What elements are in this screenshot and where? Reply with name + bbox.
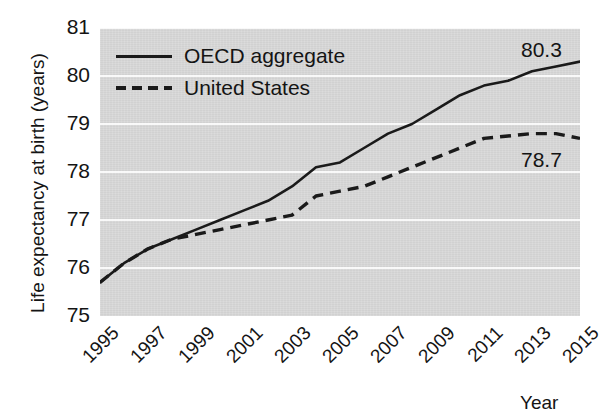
line-chart-figure: Life expectancy at birth (years) 7576777… [0,0,614,420]
y-tick-79: 79 [44,112,90,133]
x-tick-2013: 2013 [503,322,555,374]
x-tick-2015: 2015 [551,322,603,374]
legend: OECD aggregate United States [116,40,376,104]
x-tick-2003: 2003 [263,322,315,374]
x-tick-2001: 2001 [215,322,267,374]
series-line-united-states [100,134,580,283]
y-tick-75: 75 [44,304,90,325]
y-tick-77: 77 [44,208,90,229]
x-tick-2009: 2009 [407,322,459,374]
y-tick-81: 81 [44,16,90,37]
legend-label-oecd-aggregate: OECD aggregate [184,44,345,68]
endpoint-label-oecd-aggregate: 80.3 [521,38,562,62]
legend-label-united-states: United States [184,76,310,100]
x-tick-2005: 2005 [311,322,363,374]
legend-item-oecd-aggregate: OECD aggregate [116,40,376,72]
solid-line-key-icon [116,50,172,62]
y-tick-78: 78 [44,160,90,181]
x-tick-1997: 1997 [119,322,171,374]
y-tick-80: 80 [44,64,90,85]
endpoint-label-united-states: 78.7 [521,148,562,172]
x-axis-title: Year [520,392,558,414]
x-tick-1999: 1999 [167,322,219,374]
x-tick-1995: 1995 [71,322,123,374]
x-tick-2007: 2007 [359,322,411,374]
dashed-line-key-icon [116,82,172,94]
x-tick-2011: 2011 [455,322,507,374]
y-tick-76: 76 [44,256,90,277]
legend-item-united-states: United States [116,72,376,104]
